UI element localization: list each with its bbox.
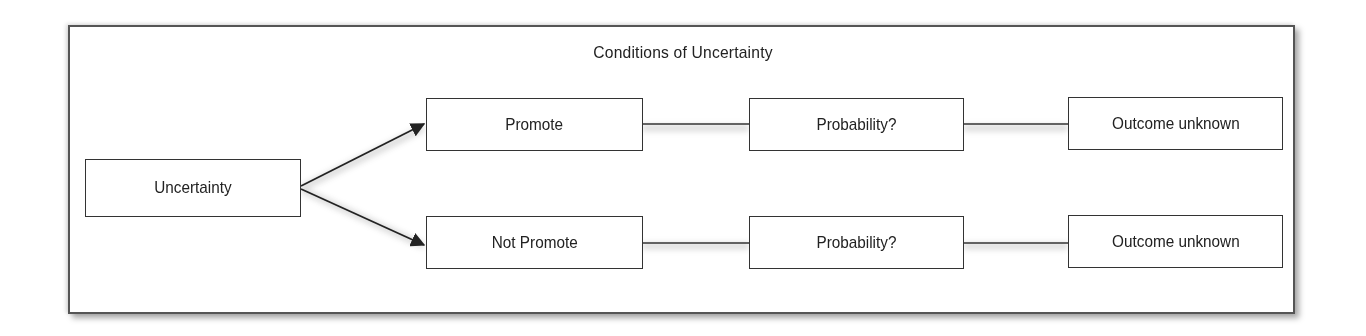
node-label: Outcome unknown <box>1112 232 1240 252</box>
node-outcome-2: Outcome unknown <box>1068 215 1283 268</box>
node-outcome-1: Outcome unknown <box>1068 97 1283 150</box>
node-label: Probability? <box>817 233 897 253</box>
node-uncertainty: Uncertainty <box>85 159 301 217</box>
node-probability-2: Probability? <box>749 216 964 269</box>
node-label: Promote <box>506 115 564 135</box>
node-promote: Promote <box>426 98 643 151</box>
node-probability-1: Probability? <box>749 98 964 151</box>
node-label: Uncertainty <box>154 178 231 198</box>
arrow-to-promote <box>301 124 424 186</box>
node-label: Outcome unknown <box>1112 114 1240 134</box>
node-label: Probability? <box>817 115 897 135</box>
node-not-promote: Not Promote <box>426 216 643 269</box>
node-label: Not Promote <box>492 233 578 253</box>
arrow-to-not-promote <box>301 189 424 245</box>
